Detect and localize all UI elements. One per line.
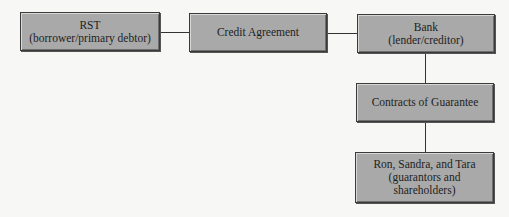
- connector-bank-contracts: [425, 53, 426, 83]
- node-contracts-of-guarantee: Contracts of Guarantee: [356, 83, 494, 122]
- node-rst: RST (borrower/primary debtor): [20, 12, 160, 51]
- connector-credit-bank: [327, 33, 357, 34]
- node-bank: Bank (lender/creditor): [357, 14, 495, 53]
- node-credit-agreement: Credit Agreement: [189, 13, 327, 52]
- node-guarantors: Ron, Sandra, and Tara (guarantors and sh…: [355, 152, 494, 203]
- connector-rst-credit: [160, 32, 189, 33]
- connector-contracts-guarantors: [425, 122, 426, 152]
